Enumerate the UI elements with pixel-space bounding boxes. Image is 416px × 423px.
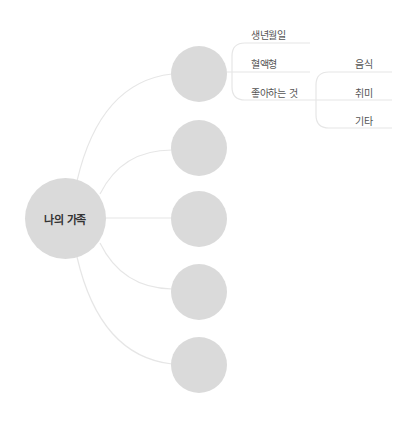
member-node-3[interactable] <box>171 191 227 247</box>
attribute-blood-type[interactable]: 혈액형 <box>251 56 277 71</box>
root-node-label: 나의 가족 <box>44 211 86 227</box>
mind-map-canvas: 나의 가족 생년월일 혈액형 좋아하는 것 음식 취미 기타 <box>0 0 416 423</box>
member-node-5[interactable] <box>171 337 227 393</box>
attribute-birthdate[interactable]: 생년월일 <box>251 27 286 42</box>
connector-root-member-2 <box>100 150 172 194</box>
connector-root-member-4 <box>100 243 172 289</box>
favorite-food[interactable]: 음식 <box>355 56 372 71</box>
member-node-2[interactable] <box>171 120 227 176</box>
favorite-other[interactable]: 기타 <box>355 113 372 128</box>
connector-root-member-1 <box>77 74 172 181</box>
attribute-favorites[interactable]: 좋아하는 것 <box>251 85 297 100</box>
member-node-4[interactable] <box>171 264 227 320</box>
connector-root-member-5 <box>77 257 172 364</box>
bracket-favorites <box>310 72 392 128</box>
favorite-hobby[interactable]: 취미 <box>355 85 372 100</box>
member-node-1[interactable] <box>171 46 227 102</box>
